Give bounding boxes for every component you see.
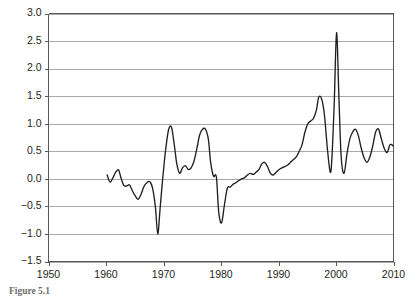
- x-tick-label: 1960: [94, 268, 118, 280]
- axis-lines: [49, 14, 394, 262]
- y-tick-label: 2.5: [27, 34, 42, 46]
- data-series: [107, 33, 393, 234]
- y-tick-label: −1.0: [21, 227, 42, 239]
- series-line: [107, 33, 393, 234]
- y-tick-label: −1.5: [21, 254, 42, 266]
- y-tick-label: 0.5: [27, 144, 42, 156]
- figure-caption: Figure 5.1: [9, 286, 50, 297]
- y-tick-label: 1.5: [27, 89, 42, 101]
- x-tick-label: 1990: [267, 268, 291, 280]
- x-axis-labels: 1950196019701980199020002010: [37, 268, 406, 280]
- y-tick-label: 2.0: [27, 61, 42, 73]
- x-tick-label: 1970: [152, 268, 176, 280]
- y-tick-label: 3.0: [27, 6, 42, 18]
- y-tick-label: −0.5: [21, 199, 42, 211]
- y-tick-label: 0.0: [27, 172, 42, 184]
- x-tick-label: 1980: [209, 268, 233, 280]
- y-axis-labels: −1.5−1.0−0.50.00.51.01.52.02.53.0: [21, 6, 42, 266]
- gridlines: [49, 15, 394, 263]
- figure-container: −1.5−1.0−0.50.00.51.01.52.02.53.0 195019…: [0, 0, 417, 297]
- y-tick-label: 1.0: [27, 117, 42, 129]
- x-tick-label: 2000: [324, 268, 348, 280]
- x-tick-label: 2010: [382, 268, 406, 280]
- x-tick-label: 1950: [37, 268, 61, 280]
- line-chart: −1.5−1.0−0.50.00.51.01.52.02.53.0 195019…: [0, 0, 417, 297]
